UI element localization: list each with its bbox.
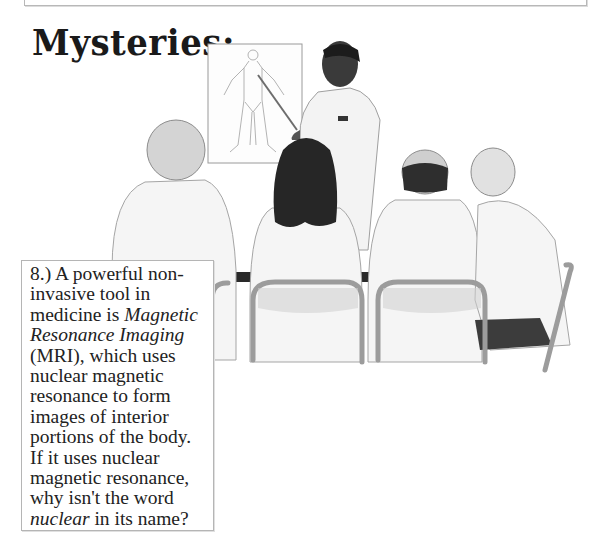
question-number: 8.) <box>30 263 51 284</box>
top-header-box <box>24 0 587 6</box>
question-text: 8.) A powerful non-invasive tool in medi… <box>30 264 207 529</box>
term-nuclear: nuclear <box>30 508 90 529</box>
seated-person-3 <box>368 150 482 362</box>
body-chart-poster <box>208 44 302 163</box>
question-box: 8.) A powerful non-invasive tool in medi… <box>21 260 214 531</box>
